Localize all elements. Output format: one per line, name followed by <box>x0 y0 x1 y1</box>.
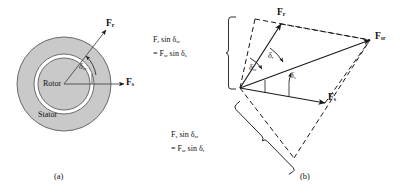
vector-Fsr-panel-b <box>240 40 370 88</box>
caption-panel-b: (b) <box>300 172 310 181</box>
brace-lower-projection <box>234 96 294 179</box>
label-Fs-panel-b-sub: s <box>334 96 336 102</box>
construction-line-upper-left <box>240 19 255 88</box>
label-delta-sr-panel-b: δsr <box>249 64 257 73</box>
equation-upper-line1-mid: sin <box>159 35 172 44</box>
label-delta-s-panel-b-sub: s <box>294 75 296 80</box>
equation-lower-line2-eq: = <box>171 144 178 153</box>
equation-lower-line1-mid: sin <box>177 130 190 139</box>
equation-lower-line1-b-sub: sr <box>195 134 199 139</box>
vector-Fs-panel-b <box>240 88 325 103</box>
equation-upper-line2-mid: sin <box>168 49 181 58</box>
label-Fs-panel-b: Fs <box>328 93 336 103</box>
label-Fr-panel-b-sub: r <box>283 11 286 17</box>
panel-b-graphics <box>0 0 417 194</box>
label-Fr-panel-b: Fr <box>277 8 285 18</box>
label-delta-sr-panel-b-sub: sr <box>253 67 257 72</box>
label-delta-s-panel-b: δs <box>290 72 296 81</box>
label-Fsr-panel-b: Fsr <box>375 32 386 42</box>
equation-upper-line1: Fr sin δsr <box>153 36 180 45</box>
equation-upper-line1-b-sub: sr <box>176 39 180 44</box>
label-Fsr-panel-b-sub: sr <box>381 35 386 41</box>
equation-lower-line1: Fs sin δsr <box>171 131 198 140</box>
equation-lower-line2-b-sub: r <box>203 148 205 153</box>
figure-container: Fr Fs δsr Rotor Stator (a) <box>0 0 417 194</box>
equation-lower-line2: = Fsr sin δr <box>171 145 204 154</box>
brace-upper-projection <box>226 17 236 89</box>
vector-Fr-panel-b <box>240 24 281 88</box>
equation-upper-line2: = Fsr sin δs <box>153 50 187 59</box>
equation-lower-line2-mid: sin <box>186 144 199 153</box>
equation-upper-line2-b-sub: s <box>185 53 187 58</box>
label-delta-r-panel-b: δr <box>268 52 274 61</box>
label-delta-r-panel-b-sub: r <box>272 55 274 60</box>
construction-line-lower-left <box>240 88 294 158</box>
equation-upper-line2-eq: = <box>153 49 160 58</box>
